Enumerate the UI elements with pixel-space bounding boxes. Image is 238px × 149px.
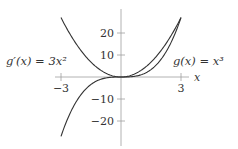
function-plot: −3 3 20 10 −10 −20 x g′(x) = 3x² g(x) = … [0, 0, 238, 149]
y-tick-label-neg20: −20 [91, 115, 114, 128]
y-tick-label-neg10: −10 [91, 93, 114, 106]
x-axis-label: x [194, 71, 201, 84]
function-label: g(x) = x³ [173, 54, 224, 68]
y-tick-label-10: 10 [100, 49, 114, 62]
derivative-label: g′(x) = 3x² [6, 54, 67, 68]
y-tick-label-20: 20 [100, 27, 114, 40]
x-tick-label-neg3: −3 [53, 82, 69, 95]
x-tick-label-3: 3 [178, 82, 185, 95]
